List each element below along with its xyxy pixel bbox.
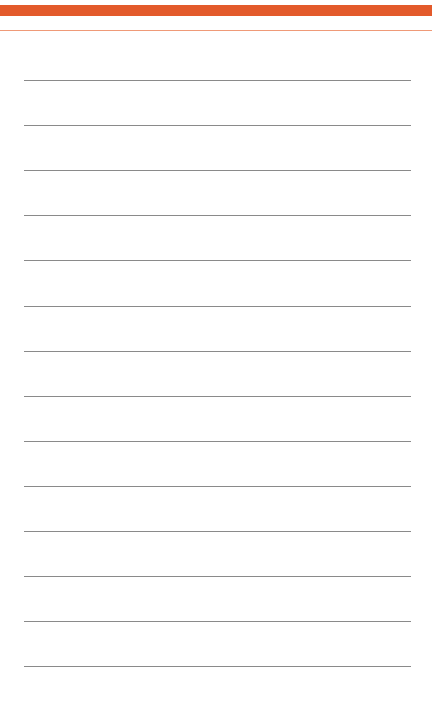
ruled-line-13 xyxy=(24,621,411,622)
ruled-line-11 xyxy=(24,531,411,532)
ruled-line-3 xyxy=(24,170,411,171)
ruled-line-5 xyxy=(24,260,411,261)
ruled-lines-area xyxy=(0,0,432,709)
ruled-line-8 xyxy=(24,396,411,397)
ruled-line-7 xyxy=(24,351,411,352)
ruled-line-12 xyxy=(24,576,411,577)
ruled-line-9 xyxy=(24,441,411,442)
ruled-line-6 xyxy=(24,306,411,307)
ruled-line-14 xyxy=(24,666,411,667)
ruled-line-1 xyxy=(24,80,411,81)
ruled-line-2 xyxy=(24,125,411,126)
ruled-line-10 xyxy=(24,486,411,487)
ruled-line-4 xyxy=(24,215,411,216)
